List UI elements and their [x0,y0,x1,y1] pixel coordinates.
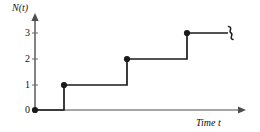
jump-marker-3 [184,30,190,36]
zigzag-break-stroke [229,27,234,40]
jump-marker-1 [61,82,67,88]
y-tick-label-3: 3 [20,28,30,38]
y-axis [31,13,38,110]
x-axis-arrowhead-icon [238,106,246,113]
x-axis [35,106,246,113]
step-function-curve [35,33,228,110]
jump-point-markers [32,30,190,113]
jump-marker-2 [124,56,130,62]
y-tick-label-0: 0 [20,105,30,115]
zigzag-break-icon [229,27,234,40]
y-axis-arrowhead-icon [31,13,38,21]
y-axis-label: N(t) [12,3,28,13]
x-axis-label: Time t [196,118,221,128]
step-function-figure: N(t) Time t 3 2 1 0 [0,0,260,132]
step-path [35,33,228,110]
y-tick-label-2: 2 [20,54,30,64]
y-tick-label-1: 1 [20,80,30,90]
jump-marker-0 [32,107,38,113]
plot-area [0,0,260,132]
